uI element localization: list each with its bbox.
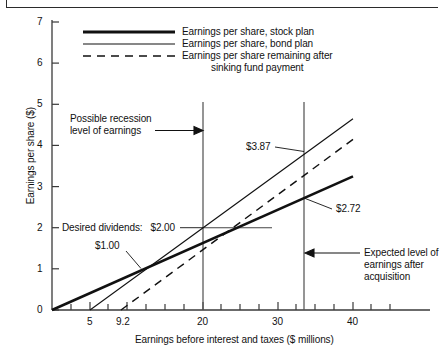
x-tick-label-40: 40 bbox=[347, 316, 358, 327]
y-tick-label-0: 0 bbox=[37, 304, 42, 315]
x-tick-label-30: 30 bbox=[272, 316, 283, 327]
leader-possible-recession bbox=[155, 127, 203, 135]
leader-eps-272 bbox=[304, 198, 332, 209]
legend-label-sinking-fund-line2: sinking fund payment bbox=[211, 62, 304, 73]
y-tick-label-3: 3 bbox=[37, 181, 42, 192]
y-axis-title: Earnings per share ($) bbox=[25, 96, 36, 216]
annotation-desired-dividends: Desired dividends: $2.00 bbox=[62, 222, 175, 233]
leader-eps-100 bbox=[126, 251, 141, 269]
x-tick-label-20: 20 bbox=[197, 316, 208, 327]
y-tick-label-1: 1 bbox=[37, 263, 42, 274]
annotation-expected-level-line2: earnings after bbox=[364, 259, 424, 270]
x-tick-marks bbox=[71, 302, 390, 310]
annotation-eps-272: $2.72 bbox=[336, 203, 361, 214]
x-tick-label-5: 5 bbox=[87, 316, 92, 327]
x-tick-label-9-2: 9.2 bbox=[116, 316, 130, 327]
annotation-eps-100: $1.00 bbox=[95, 240, 120, 251]
y-tick-label-4: 4 bbox=[37, 139, 42, 150]
y-tick-label-5: 5 bbox=[37, 98, 42, 109]
y-tick-marks bbox=[52, 22, 59, 310]
legend-label-stock-plan: Earnings per share, stock plan bbox=[182, 26, 314, 37]
leader-expected-level bbox=[305, 249, 360, 257]
annotation-possible-recession-line1: Possible recession bbox=[70, 113, 152, 124]
annotation-possible-recession-line2: level of earnings bbox=[70, 125, 141, 136]
y-tick-label-6: 6 bbox=[37, 57, 42, 68]
leader-eps-387 bbox=[275, 147, 304, 152]
figure-container: 7 6 5 4 3 2 1 0 5 9.2 20 30 40 Earnings … bbox=[0, 0, 444, 357]
annotation-expected-level-line1: Expected level of bbox=[364, 247, 438, 258]
annotation-eps-387: $3.87 bbox=[246, 141, 271, 152]
x-axis-title: Earnings before interest and taxes ($ mi… bbox=[135, 334, 334, 345]
y-tick-label-7: 7 bbox=[37, 16, 42, 27]
y-tick-label-2: 2 bbox=[37, 222, 42, 233]
legend-label-bond-plan: Earnings per share, bond plan bbox=[182, 38, 313, 49]
series-bond-plan bbox=[90, 119, 353, 310]
annotation-expected-level-line3: acquisition bbox=[364, 271, 410, 282]
legend-label-sinking-fund: Earnings per share remaining after bbox=[182, 50, 333, 61]
